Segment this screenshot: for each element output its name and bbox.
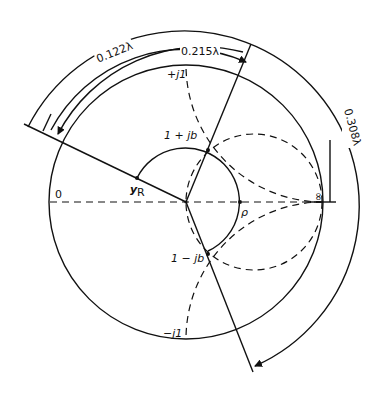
plus-j1-label: +j1 [167, 68, 186, 81]
arc-0215-lambda [51, 49, 246, 130]
yr-radial-line [24, 124, 186, 202]
minus-j1-label: −j1 [163, 327, 182, 340]
arc-inner-label: 0.215λ [181, 45, 219, 58]
upper-radial-line [186, 44, 251, 202]
minus-j1-susceptance-arc [186, 202, 323, 339]
arc-0122-end-tick [43, 114, 51, 131]
rho-label: ρ [241, 206, 248, 219]
point-1-minus-jb [206, 252, 210, 256]
zero-label: 0 [55, 188, 62, 201]
center-point [184, 200, 187, 203]
point-upper-label: 1 + jb [164, 129, 197, 142]
smith-chart-svg: 0.122λ 0.215λ 0.308λ +j1 −j1 1 + jb 1 − … [0, 0, 376, 396]
smith-chart-diagram: 0.122λ 0.215λ 0.308λ +j1 −j1 1 + jb 1 − … [0, 0, 376, 396]
plus-j1-susceptance-arc [186, 65, 323, 202]
swr-circle-arc [137, 148, 239, 251]
point-1-plus-jb [206, 148, 210, 152]
rho-point [238, 200, 242, 204]
arc-outer-label: 0.122λ [95, 39, 136, 65]
infinity-label: ∞ [312, 192, 325, 201]
arc-0308-lambda [28, 31, 359, 366]
point-lower-label: 1 − jb [171, 252, 204, 265]
yr-subscript: R [137, 186, 145, 199]
arc-0122-lambda [58, 47, 243, 134]
yr-point [135, 176, 139, 180]
